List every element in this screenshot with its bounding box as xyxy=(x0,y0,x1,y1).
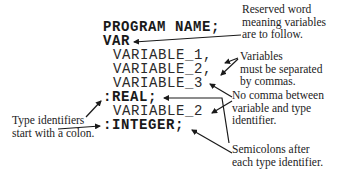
annotation-arrows xyxy=(0,0,337,184)
arrow-to-real-colon-icon xyxy=(86,101,101,117)
arrow-to-integer-semicolon-icon xyxy=(192,130,232,153)
arrow-to-integer-colon-icon xyxy=(58,126,100,129)
arrow-to-real-semicolon-icon xyxy=(164,98,229,143)
arrow-to-variable-3-icon xyxy=(210,84,232,97)
arrow-to-var-icon xyxy=(134,35,241,42)
arrow-to-variable-2-icon xyxy=(212,101,232,113)
